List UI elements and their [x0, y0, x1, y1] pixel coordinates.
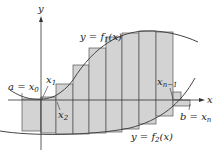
x-axis-arrow-icon	[199, 98, 205, 102]
approximating-rectangle	[173, 100, 190, 106]
lower-curve-label: y = f2(x)	[130, 131, 173, 144]
approximating-rectangle	[122, 33, 139, 129]
approximating-rectangle	[106, 37, 122, 132]
approximating-rectangle	[139, 31, 156, 124]
approximating-rectangle	[41, 97, 56, 133]
area-between-curves-diagram: y x y = f1(x) y = f2(x) a = x0 x1 x2 xn−…	[0, 0, 219, 155]
approximating-rectangle	[156, 32, 173, 116]
approximating-rectangle	[89, 48, 106, 133]
y-axis-arrow-icon	[39, 16, 43, 22]
x-axis-label: x	[207, 94, 213, 105]
label-b-xn: b = xn	[180, 111, 212, 124]
approximating-rectangle	[22, 99, 41, 131]
label-x1: x1	[46, 74, 56, 87]
y-axis-label: y	[37, 3, 44, 14]
approximating-rectangle	[73, 65, 89, 134]
